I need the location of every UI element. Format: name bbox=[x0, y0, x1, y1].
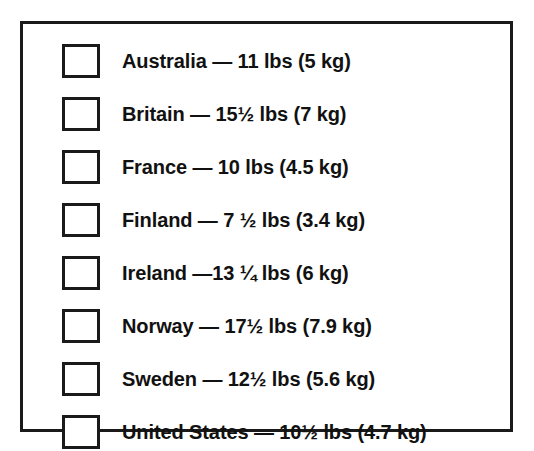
checklist-row[interactable]: Britain — 15½ lbs (7 kg) bbox=[62, 97, 492, 131]
checklist-row-label: Ireland —13 ¼ lbs (6 kg) bbox=[122, 256, 492, 290]
checkbox-france[interactable] bbox=[62, 150, 100, 184]
checklist-row[interactable]: Finland — 7 ½ lbs (3.4 kg) bbox=[62, 203, 492, 237]
checklist-row[interactable]: Australia — 11 lbs (5 kg) bbox=[62, 44, 492, 78]
checklist-row-label: Finland — 7 ½ lbs (3.4 kg) bbox=[122, 203, 492, 237]
checklist-row-label: Australia — 11 lbs (5 kg) bbox=[122, 44, 492, 78]
checklist-row-label: Britain — 15½ lbs (7 kg) bbox=[122, 97, 492, 131]
checklist-row-label: Norway — 17½ lbs (7.9 kg) bbox=[122, 309, 492, 343]
checklist-row-label: United States — 10½ lbs (4.7 kg) bbox=[122, 415, 492, 449]
checkbox-australia[interactable] bbox=[62, 44, 100, 78]
checklist-row[interactable]: United States — 10½ lbs (4.7 kg) bbox=[62, 415, 492, 449]
checklist-row[interactable]: France — 10 lbs (4.5 kg) bbox=[62, 150, 492, 184]
checklist-row-label: France — 10 lbs (4.5 kg) bbox=[122, 150, 492, 184]
checkbox-sweden[interactable] bbox=[62, 362, 100, 396]
checkbox-britain[interactable] bbox=[62, 97, 100, 131]
checklist-row[interactable]: Sweden — 12½ lbs (5.6 kg) bbox=[62, 362, 492, 396]
checkbox-finland[interactable] bbox=[62, 203, 100, 237]
checkbox-ireland[interactable] bbox=[62, 256, 100, 290]
checklist-row[interactable]: Ireland —13 ¼ lbs (6 kg) bbox=[62, 256, 492, 290]
checklist-row[interactable]: Norway — 17½ lbs (7.9 kg) bbox=[62, 309, 492, 343]
checklist-row-label: Sweden — 12½ lbs (5.6 kg) bbox=[122, 362, 492, 396]
checkbox-norway[interactable] bbox=[62, 309, 100, 343]
checklist-rows: Australia — 11 lbs (5 kg)Britain — 15½ l… bbox=[62, 44, 492, 449]
checkbox-united-states[interactable] bbox=[62, 415, 100, 449]
checklist-frame: Australia — 11 lbs (5 kg)Britain — 15½ l… bbox=[20, 21, 513, 432]
